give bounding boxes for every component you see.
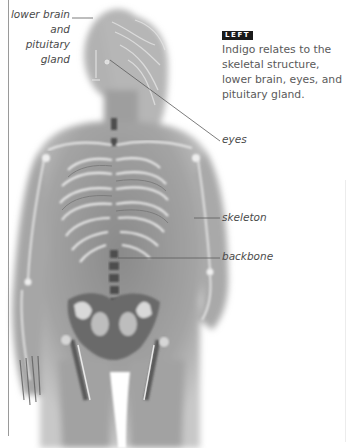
label-lower-brain-pituitary: lower brain and pituitary gland — [11, 7, 70, 67]
label-eyes: eyes — [222, 132, 247, 147]
caption-line: lower brain, eyes, and — [222, 72, 342, 87]
caption-line: pituitary gland. — [222, 87, 342, 102]
caption-text: Indigo relates to the skeletal structure… — [222, 42, 342, 102]
caption-line: skeletal structure, — [222, 57, 342, 72]
caption-line: Indigo relates to the — [222, 42, 342, 57]
label-skeleton: skeleton — [222, 210, 267, 225]
caption-direction-badge: LEFT — [222, 31, 253, 40]
label-line: gland — [11, 52, 70, 67]
label-line: pituitary — [11, 37, 70, 52]
label-line: lower brain — [11, 7, 70, 22]
label-line: and — [11, 22, 70, 37]
label-backbone: backbone — [222, 249, 273, 264]
book-page: lower brain and pituitary gland LEFT Ind… — [0, 0, 347, 448]
